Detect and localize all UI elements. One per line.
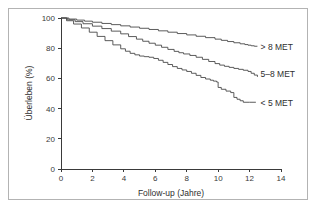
x-tick-label: 4 <box>122 174 127 183</box>
x-tick-label: 6 <box>153 174 158 183</box>
x-tick-label: 14 <box>277 174 286 183</box>
series-label-2: 5–8 MET <box>261 69 296 79</box>
y-tick-label: 80 <box>46 44 55 53</box>
x-tick-label: 0 <box>59 174 64 183</box>
series-label-3: < 5 MET <box>261 98 293 108</box>
x-axis-title: Follow-up (Jahre) <box>138 188 204 198</box>
curves-group <box>61 18 257 102</box>
y-tick-label: 0 <box>51 165 56 174</box>
y-axis-title: Überleben (%) <box>24 65 34 120</box>
series-label-1: > 8 MET <box>261 42 293 52</box>
axes-group <box>61 18 281 169</box>
x-tick-label: 10 <box>214 174 223 183</box>
series-labels-group: > 8 MET5–8 MET< 5 MET <box>261 42 296 108</box>
figure-container: 02468101214 020406080100 > 8 MET5–8 MET<… <box>0 0 326 212</box>
y-tick-label: 100 <box>42 14 56 23</box>
x-tick-label: 8 <box>184 174 189 183</box>
y-tick-label: 20 <box>46 135 55 144</box>
x-tick-group: 02468101214 <box>59 169 286 183</box>
x-tick-label: 12 <box>245 174 254 183</box>
survival-curve-2 <box>61 18 257 77</box>
x-tick-label: 2 <box>90 174 95 183</box>
y-tick-group: 020406080100 <box>42 14 61 174</box>
y-tick-label: 40 <box>46 105 55 114</box>
survival-curve-chart: 02468101214 020406080100 > 8 MET5–8 MET<… <box>0 0 326 212</box>
y-tick-label: 60 <box>46 74 55 83</box>
